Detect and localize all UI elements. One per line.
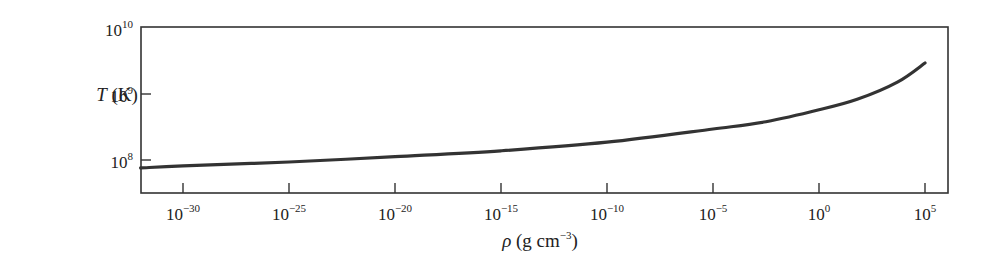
x-tick-label: 10−10 [590,202,625,224]
x-tick-label: 100 [808,202,831,224]
x-tick-label: 105 [914,202,937,224]
plot-frame [141,27,948,193]
y-tick-label: 1010 [105,18,134,40]
x-axis-ticks: 10−3010−2510−2010−1510−1010−5100105 [166,183,937,224]
x-tick-label: 10−30 [166,202,201,224]
x-tick-label: 10−25 [272,202,307,224]
y-axis-label: T (K) [96,84,138,106]
x-axis-label: ρ (g cm−3) [501,229,578,252]
x-tick-label: 10−15 [484,202,519,224]
temperature-density-chart: 10−3010−2510−2010−1510−1010−5100105 1081… [0,0,991,267]
x-tick-label: 10−20 [378,202,413,224]
x-tick-label: 10−5 [699,202,728,224]
plot-border [141,27,948,193]
temperature-curve [141,63,925,168]
y-tick-label: 108 [111,150,134,172]
